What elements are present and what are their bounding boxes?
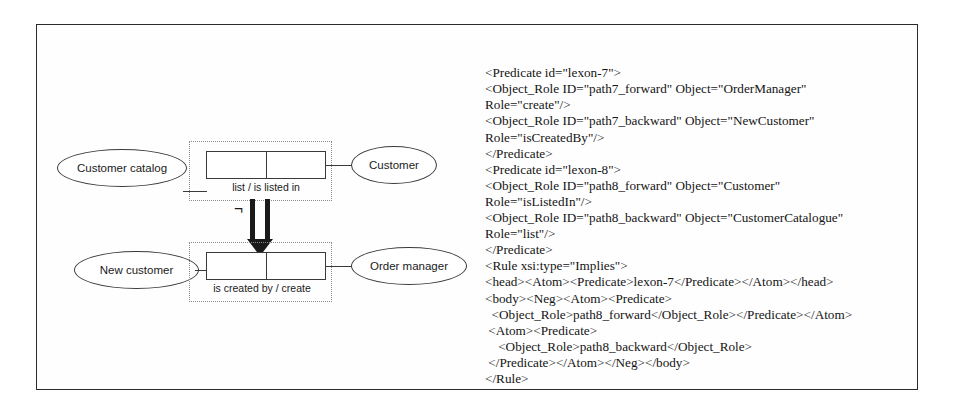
fact-label-top-text: list / is listed in (232, 181, 300, 193)
concept-node-customer-catalog: Customer catalog (57, 149, 187, 187)
xml-line: <Object_Role ID="path7_forward" Object="… (485, 81, 915, 97)
negation-icon: ¬ (234, 201, 243, 217)
xml-line: </Predicate></Atom></Neg></body> (485, 355, 915, 371)
xml-line: Role="isCreatedBy"/> (485, 130, 915, 146)
concept-node-order-manager: Order manager (351, 247, 467, 285)
xml-line: <Atom><Predicate> (485, 323, 915, 339)
concept-label-new-customer: New customer (100, 264, 174, 276)
xml-line: <Rule xsi:type="Implies"> (485, 258, 915, 274)
xml-line: <body><Neg><Atom><Predicate> (485, 291, 915, 307)
fact-cell-bottom-right (266, 253, 325, 279)
xml-line: <Object_Role ID="path7_backward" Object=… (485, 113, 915, 129)
xml-line: Role="create"/> (485, 97, 915, 113)
xml-line: <head><Atom><Predicate>lexon-7</Predicat… (485, 274, 915, 290)
arrow-shaft-right (265, 199, 270, 241)
figure-frame: Customer catalog list / is listed in Cus… (36, 24, 918, 390)
concept-label-customer: Customer (369, 159, 419, 171)
xml-line: <Object_Role>path8_forward</Object_Role>… (485, 307, 915, 323)
xml-line: </Predicate> (485, 242, 915, 258)
fact-cell-top-right (266, 152, 325, 178)
xml-line: </Predicate> (485, 146, 915, 162)
xml-line: Role="isListedIn"/> (485, 194, 915, 210)
concept-node-new-customer: New customer (74, 251, 199, 289)
xml-line: Role="list"/> (485, 226, 915, 242)
fact-cell-top-left (207, 152, 266, 178)
xml-line: <Predicate id="lexon-7"> (485, 65, 915, 81)
xml-line: <Object_Role ID="path8_forward" Object="… (485, 178, 915, 194)
orm-diagram: Customer catalog list / is listed in Cus… (37, 25, 477, 391)
negation-symbol-text: ¬ (234, 200, 243, 217)
fact-box-bottom (206, 252, 326, 280)
concept-node-customer: Customer (351, 146, 437, 184)
xml-line: <Object_Role>path8_backward</Object_Role… (485, 339, 915, 355)
fact-label-top: list / is listed in (196, 181, 336, 193)
fact-label-bottom-text: is created by / create (213, 282, 310, 294)
concept-label-order-manager: Order manager (370, 260, 448, 272)
concept-label-customer-catalog: Customer catalog (77, 162, 167, 174)
fact-label-bottom: is created by / create (189, 282, 335, 294)
fact-box-top (206, 151, 326, 179)
arrow-shaft-left (250, 199, 255, 241)
xml-listing: <Predicate id="lexon-7"><Object_Role ID=… (485, 33, 915, 388)
connector-top-right (326, 165, 352, 166)
connector-bottom-right (326, 266, 352, 267)
fact-cell-bottom-left (207, 253, 266, 279)
xml-line: </Rule> (485, 371, 915, 387)
xml-line: <Object_Role ID="path8_backward" Object=… (485, 210, 915, 226)
xml-lines-container: <Predicate id="lexon-7"><Object_Role ID=… (485, 65, 915, 387)
xml-line: <Predicate id="lexon-8"> (485, 162, 915, 178)
